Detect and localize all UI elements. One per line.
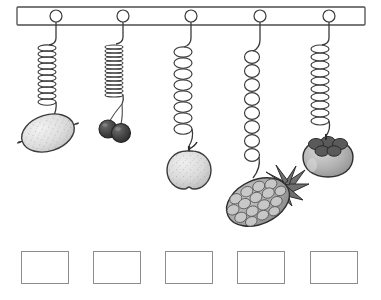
spring-3-top-wire <box>184 22 191 47</box>
cherry-highlight-left <box>102 123 107 127</box>
worksheet-canvas <box>0 0 381 300</box>
answer-boxes-row <box>0 251 381 291</box>
spring-assembly-cherries <box>105 22 123 124</box>
hook-ring-5 <box>323 10 335 22</box>
answer-box-4[interactable] <box>237 251 285 284</box>
answer-box-1[interactable] <box>21 251 69 284</box>
cherry-highlight-right <box>115 127 121 131</box>
hook-ring-4 <box>254 10 266 22</box>
spring-assembly-persimmon <box>311 22 330 136</box>
apple-texture <box>167 151 211 189</box>
spring-4-coils <box>245 51 260 162</box>
spring-5-coils <box>311 45 329 125</box>
fruit-persimmon <box>303 134 353 177</box>
lemon-tip-left <box>17 141 22 143</box>
persimmon-highlight <box>307 158 317 172</box>
cherry-stem-left <box>109 104 122 122</box>
spring-4-top-wire <box>253 22 260 51</box>
answer-box-5[interactable] <box>310 251 358 284</box>
hook-ring-2 <box>117 10 129 22</box>
spring-2-coils <box>105 45 123 97</box>
answer-box-2[interactable] <box>93 251 141 284</box>
hook-ring-3 <box>185 10 197 22</box>
fruit-cherries <box>99 120 131 143</box>
calyx-lobe-bottom-right <box>327 146 341 156</box>
spring-assembly-lemon <box>38 22 56 117</box>
spring-3-coils <box>174 47 192 134</box>
hook-ring-1 <box>50 10 62 22</box>
spring-assembly-apple <box>174 22 197 152</box>
answer-box-3[interactable] <box>165 251 213 284</box>
fruit-pineapple <box>219 165 309 236</box>
lemon-texture <box>17 108 79 159</box>
lemon-tip-right <box>74 123 79 125</box>
cherry-berry-right <box>112 124 131 143</box>
spring-1-coils <box>38 45 56 105</box>
spring-assembly-pineapple <box>245 22 261 178</box>
fruit-apple <box>167 151 211 189</box>
cherry-stem-right <box>121 104 122 124</box>
fruit-lemon <box>12 106 84 160</box>
